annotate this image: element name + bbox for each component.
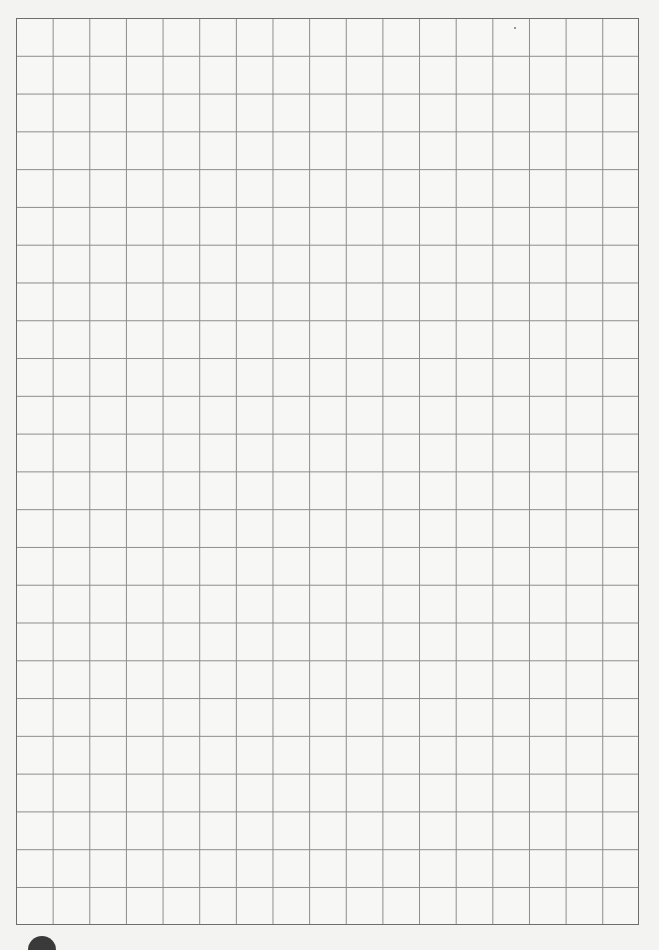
grid-paper-area: [16, 18, 639, 925]
scan-edge-mark: [28, 936, 56, 950]
scan-speck: [514, 27, 516, 29]
